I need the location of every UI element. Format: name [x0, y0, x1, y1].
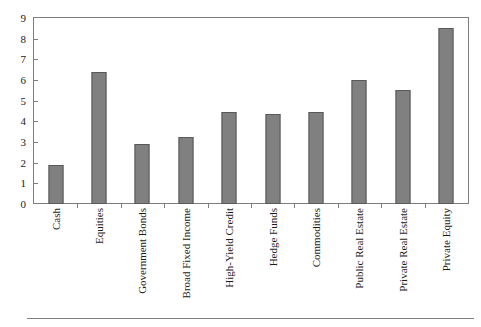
x-tick-mark	[208, 204, 209, 208]
bar	[352, 80, 367, 204]
x-tick-label: Private Equity	[441, 208, 452, 271]
x-tick-mark	[164, 204, 165, 208]
bar	[48, 165, 63, 204]
bar-slot	[121, 18, 164, 204]
x-label-slot: High-Yield Credit	[208, 208, 251, 318]
bar	[439, 28, 454, 204]
y-tick-mark	[34, 59, 38, 60]
y-tick-mark	[34, 183, 38, 184]
x-tick-mark	[121, 204, 122, 208]
bar	[265, 114, 280, 204]
x-label-slot: Public Real Estate	[338, 208, 381, 318]
x-tick-mark	[425, 204, 426, 208]
bars-layer	[34, 18, 468, 204]
y-tick-label: 4	[21, 116, 27, 127]
x-tick-label: Cash	[50, 208, 61, 230]
x-tick-mark	[77, 204, 78, 208]
y-tick-mark	[34, 80, 38, 81]
x-tick-mark	[381, 204, 382, 208]
x-tick-label: Commodities	[311, 208, 322, 267]
y-tick-mark	[34, 121, 38, 122]
x-label-slot: Private Equity	[425, 208, 468, 318]
bar-slot	[294, 18, 337, 204]
x-label-slot: Private Real Estate	[381, 208, 424, 318]
x-label-slot: Equities	[77, 208, 120, 318]
bar-slot	[34, 18, 77, 204]
y-tick-label: 2	[21, 157, 27, 168]
x-label-slot: Broad Fixed Income	[164, 208, 207, 318]
y-tick-mark	[34, 101, 38, 102]
y-tick-label: 8	[21, 33, 27, 44]
bar-slot	[208, 18, 251, 204]
bar-slot	[381, 18, 424, 204]
x-tick-mark	[251, 204, 252, 208]
bar-chart-figure: 0123456789 CashEquitiesGovernment BondsB…	[0, 0, 481, 327]
y-axis: 0123456789	[0, 0, 33, 327]
y-tick-mark	[34, 39, 38, 40]
y-tick-label: 0	[21, 199, 27, 210]
bar	[178, 137, 193, 204]
x-tick-label: Hedge Funds	[267, 208, 278, 266]
bar-slot	[164, 18, 207, 204]
x-tick-mark	[294, 204, 295, 208]
x-tick-label: Equities	[94, 208, 105, 244]
bar-slot	[338, 18, 381, 204]
bar	[309, 112, 324, 204]
bar-slot	[425, 18, 468, 204]
y-tick-label: 1	[21, 178, 27, 189]
x-tick-label: Public Real Estate	[354, 208, 365, 289]
x-label-slot: Commodities	[294, 208, 337, 318]
x-tick-label: High-Yield Credit	[224, 208, 235, 288]
y-tick-mark	[34, 142, 38, 143]
y-tick-label: 6	[21, 75, 27, 86]
bar-slot	[251, 18, 294, 204]
x-tick-mark	[338, 204, 339, 208]
bottom-rule-divider	[27, 318, 474, 319]
x-axis: CashEquitiesGovernment BondsBroad Fixed …	[34, 208, 468, 318]
x-label-slot: Hedge Funds	[251, 208, 294, 318]
x-tick-label: Government Bonds	[137, 208, 148, 294]
y-tick-mark	[34, 163, 38, 164]
bar	[92, 72, 107, 204]
bar	[135, 144, 150, 204]
y-tick-label: 9	[21, 13, 27, 24]
x-tick-label: Private Real Estate	[397, 208, 408, 292]
bar	[395, 90, 410, 204]
x-label-slot: Cash	[34, 208, 77, 318]
y-tick-label: 3	[21, 137, 27, 148]
x-tick-label: Broad Fixed Income	[180, 208, 191, 298]
y-tick-label: 7	[21, 54, 27, 65]
x-label-slot: Government Bonds	[121, 208, 164, 318]
bar-slot	[77, 18, 120, 204]
bar	[222, 112, 237, 204]
y-tick-label: 5	[21, 95, 27, 106]
